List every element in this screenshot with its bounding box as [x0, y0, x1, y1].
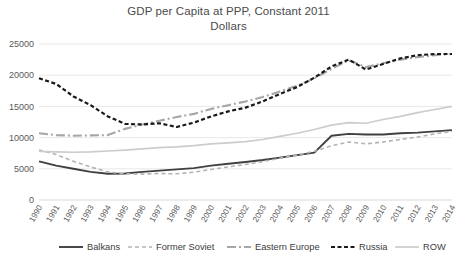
- x-tick-label: 2009: [354, 203, 371, 224]
- x-tick-label: 2011: [389, 203, 406, 223]
- x-tick-label: 2010: [371, 203, 388, 224]
- x-axis-tick-labels: 1990199119921993199419951996199719981999…: [27, 203, 457, 224]
- x-tick-label: 2006: [303, 203, 320, 224]
- y-tick-label: 25000: [9, 39, 34, 49]
- x-tick-label: 1994: [96, 203, 113, 224]
- chart-container: GDP per Capita at PPP, Constant 2011 Dol…: [0, 0, 457, 263]
- gridlines: [39, 44, 452, 200]
- x-tick-label: 2013: [423, 203, 440, 224]
- series-line-row: [39, 106, 452, 152]
- x-tick-label: 1997: [148, 203, 165, 224]
- x-tick-label: 1999: [182, 203, 199, 224]
- x-tick-label: 1990: [27, 203, 44, 224]
- x-tick-label: 2007: [320, 203, 337, 224]
- x-tick-label: 1992: [62, 203, 79, 224]
- legend-label-row: ROW: [423, 242, 446, 252]
- x-tick-label: 2014: [440, 203, 457, 224]
- series-line-russia: [39, 54, 452, 127]
- legend-label-eastern-europe: Eastern Europe: [255, 242, 320, 252]
- chart-svg: 0500010000150002000025000 19901991199219…: [0, 0, 457, 263]
- legend-label-former-soviet: Former Soviet: [156, 242, 215, 252]
- x-tick-label: 2008: [337, 203, 354, 224]
- y-tick-label: 0: [29, 195, 34, 205]
- y-tick-label: 5000: [14, 164, 34, 174]
- x-tick-label: 1996: [131, 203, 148, 224]
- x-tick-label: 1998: [165, 203, 182, 224]
- legend-label-balkans: Balkans: [87, 242, 120, 252]
- data-series-group: [39, 54, 452, 174]
- series-line-eastern-europe: [39, 54, 452, 136]
- chart-legend: BalkansFormer SovietEastern EuropeRussia…: [59, 242, 446, 252]
- x-tick-label: 2004: [268, 203, 285, 224]
- x-tick-label: 1995: [113, 203, 130, 224]
- x-tick-label: 2002: [234, 203, 251, 224]
- x-tick-label: 1993: [79, 203, 96, 224]
- x-tick-label: 2003: [251, 203, 268, 224]
- x-tick-label: 2000: [199, 203, 216, 224]
- x-tick-label: 2001: [217, 203, 234, 224]
- y-axis-tick-labels: 0500010000150002000025000: [9, 39, 34, 205]
- x-tick-label: 2005: [285, 203, 302, 224]
- y-tick-label: 10000: [9, 133, 34, 143]
- y-tick-label: 15000: [9, 102, 34, 112]
- x-tick-label: 2012: [406, 203, 423, 224]
- y-tick-label: 20000: [9, 70, 34, 80]
- x-tick-label: 1991: [45, 203, 62, 224]
- legend-label-russia: Russia: [359, 242, 388, 252]
